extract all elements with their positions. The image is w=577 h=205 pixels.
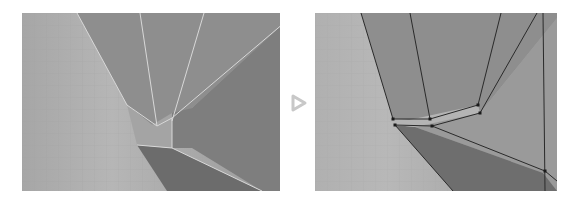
vertex-point <box>429 118 432 121</box>
after-mesh <box>315 13 557 191</box>
after-viewport <box>315 13 557 191</box>
before-viewport <box>22 13 280 191</box>
vertex-point <box>431 125 434 128</box>
before-mesh <box>22 13 280 191</box>
play-arrow-icon <box>290 93 308 113</box>
vertex-point <box>392 118 395 121</box>
vertex-point <box>479 112 482 115</box>
vertex-point <box>544 170 547 173</box>
vertex-point <box>394 124 397 127</box>
vertex-point <box>477 104 480 107</box>
